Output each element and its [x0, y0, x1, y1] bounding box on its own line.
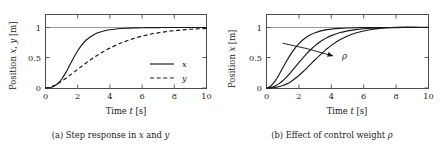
y-tick-labels-b: 1 0.5 0 — [249, 23, 262, 94]
svg-text:Position x, y [m]: Position x, y [m] — [8, 22, 18, 90]
caption-a-math-1: x — [139, 130, 144, 140]
subfigure-a: Position x, y [m] — [0, 0, 221, 153]
caption-b-text-1: Effect of control weight — [286, 130, 385, 140]
svg-text:Position x [m]: Position x [m] — [227, 30, 237, 88]
subfigure-b: Position x [m] — [221, 0, 443, 153]
svg-text:4: 4 — [107, 91, 112, 101]
caption-a-text-1: Step response in — [66, 130, 136, 140]
svg-text:0: 0 — [257, 83, 262, 93]
svg-text:8: 8 — [172, 91, 177, 101]
caption-b-label: (b) — [271, 130, 283, 140]
svg-text:6: 6 — [139, 91, 144, 101]
plot-frame-b — [267, 15, 429, 89]
y-tick-labels-a: 1 0.5 0 — [28, 23, 41, 94]
legend-label-x: x — [182, 59, 187, 69]
svg-text:0: 0 — [43, 91, 48, 101]
svg-text:Time t [s]: Time t [s] — [327, 106, 368, 116]
svg-text:0.5: 0.5 — [28, 53, 41, 63]
legend-label-y: y — [181, 73, 187, 83]
svg-text:8: 8 — [393, 91, 398, 101]
svg-text:0: 0 — [264, 91, 269, 101]
svg-text:0.5: 0.5 — [249, 53, 262, 63]
svg-text:6: 6 — [361, 91, 366, 101]
svg-text:4: 4 — [329, 91, 334, 101]
svg-text:1: 1 — [36, 23, 41, 33]
plot-b: Position x [m] — [221, 0, 443, 130]
svg-text:10: 10 — [423, 91, 433, 101]
plot-a: Position x, y [m] — [0, 0, 221, 130]
svg-text:0: 0 — [36, 83, 41, 93]
rho-label: ρ — [341, 51, 347, 61]
caption-a-math-2: y — [165, 130, 170, 140]
x-tick-labels-a: 0 2 4 6 8 10 — [43, 91, 212, 101]
caption-a-text-2: and — [146, 130, 162, 140]
y-axis-label-b: Position x [m] — [227, 30, 237, 88]
caption-b-math-1: ρ — [388, 130, 393, 140]
svg-text:2: 2 — [75, 91, 80, 101]
caption-b: (b) Effect of control weight ρ — [221, 130, 443, 141]
caption-a-label: (a) — [52, 130, 63, 140]
svg-text:Time t [s]: Time t [s] — [106, 106, 147, 116]
figure-root: Position x, y [m] — [0, 0, 443, 153]
x-tick-labels-b: 0 2 4 6 8 10 — [264, 91, 434, 101]
x-axis-label-b: Time t [s] — [327, 106, 368, 116]
svg-text:2: 2 — [296, 91, 301, 101]
caption-a: (a) Step response in x and y — [0, 130, 221, 141]
x-axis-label-a: Time t [s] — [106, 106, 147, 116]
y-axis-label-a: Position x, y [m] — [8, 22, 18, 90]
svg-text:10: 10 — [201, 91, 211, 101]
svg-text:1: 1 — [257, 23, 262, 33]
